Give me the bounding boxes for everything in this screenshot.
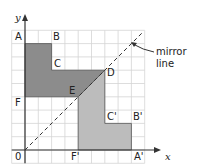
vertex-label-b: B [53,31,60,42]
vertex-label-d: D [107,67,115,78]
vertex-label-f-prime: F' [71,151,80,162]
y-axis-label: y [14,12,21,23]
vertex-label-c: C [54,58,61,69]
vertex-label-e: E [69,85,75,96]
x-axis-label: x [165,151,171,162]
x-axis-arrow-icon [154,147,161,153]
reflection-diagram: mirror line y x 0 A B C D E F A' B' C' F… [0,0,198,164]
vertex-label-f: F [15,97,21,108]
origin-label: 0 [15,151,21,162]
mirror-line-pointer-arrow-icon [133,44,154,52]
mirror-label-line2: line [156,58,174,69]
y-axis-arrow-icon [22,14,28,21]
vertex-label-a-prime: A' [134,151,144,162]
mirror-label-line1: mirror [156,46,187,57]
vertex-label-b-prime: B' [133,111,143,122]
vertex-label-c-prime: C' [107,111,117,122]
vertex-label-a: A [15,31,22,42]
